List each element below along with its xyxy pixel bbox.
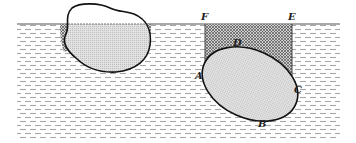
diagram-svg: F E D A C B: [0, 0, 356, 143]
buoyancy-diagram: F E D A C B: [0, 0, 356, 143]
label-A: A: [194, 70, 203, 81]
label-E: E: [287, 11, 296, 22]
label-B: B: [257, 118, 266, 129]
label-F: F: [200, 11, 209, 22]
label-C: C: [294, 84, 302, 95]
label-D: D: [232, 37, 242, 48]
